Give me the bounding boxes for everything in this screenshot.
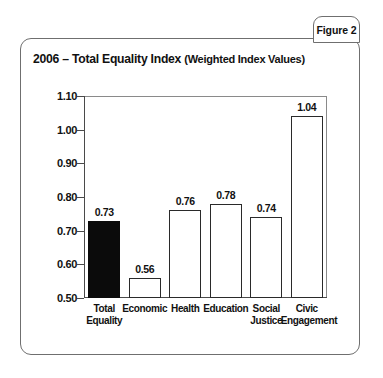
y-axis-tick-label: 0.70 xyxy=(44,225,77,237)
x-axis-label-line: Civic xyxy=(281,303,333,315)
figure-root: Figure 2 2006 – Total Equality Index (We… xyxy=(0,0,383,378)
bar-education xyxy=(210,204,242,298)
bar-value-label: 0.78 xyxy=(204,189,248,201)
y-axis-tick xyxy=(77,96,84,97)
plot-border-right xyxy=(326,96,327,298)
y-axis-tick-label: 0.80 xyxy=(44,191,77,203)
plot-border-top xyxy=(84,96,327,97)
bar-value-label: 0.74 xyxy=(244,202,288,214)
y-axis-tick-label: 0.90 xyxy=(44,157,77,169)
bar-social-justice xyxy=(250,217,282,298)
bar-value-label: 1.04 xyxy=(285,101,329,113)
bar-value-label: 0.76 xyxy=(163,195,207,207)
bar-civic-engagement xyxy=(291,116,323,298)
chart-title-sub: (Weighted Index Values) xyxy=(184,53,305,65)
y-axis-tick xyxy=(77,130,84,131)
y-axis-tick xyxy=(77,264,84,265)
x-axis-label: CivicEngagement xyxy=(281,303,333,326)
y-axis-tick-label: 1.10 xyxy=(44,90,77,102)
chart-title-main: 2006 – Total Equality Index xyxy=(33,52,184,66)
bar-value-label: 0.73 xyxy=(82,206,126,218)
x-axis-label-line: Equality xyxy=(78,315,130,327)
y-axis-tick-label: 0.60 xyxy=(44,258,77,270)
chart-title: 2006 – Total Equality Index (Weighted In… xyxy=(33,52,305,66)
bar-value-label: 0.56 xyxy=(123,263,167,275)
x-axis-label-line: Engagement xyxy=(281,315,333,327)
y-axis-tick-label: 0.50 xyxy=(44,292,77,304)
y-axis-tick-label: 1.00 xyxy=(44,124,77,136)
y-axis-tick xyxy=(77,298,84,299)
bar-health xyxy=(169,210,201,298)
bar-total-equality xyxy=(88,221,120,298)
y-axis-line xyxy=(84,96,85,298)
figure-tab-label: Figure 2 xyxy=(316,24,356,36)
y-axis-tick xyxy=(77,163,84,164)
tab-frame-join xyxy=(315,36,358,41)
y-axis-tick xyxy=(77,231,84,232)
bar-economic xyxy=(129,278,161,298)
plot-area: 0.730.560.760.780.741.04 xyxy=(84,96,327,298)
y-axis-tick xyxy=(77,197,84,198)
